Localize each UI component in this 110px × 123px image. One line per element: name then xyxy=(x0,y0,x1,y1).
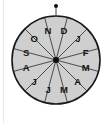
sector-label-1: J xyxy=(75,33,80,44)
sector-label-3: M xyxy=(82,62,90,73)
sector-label-10: O xyxy=(31,33,38,44)
pointer-dot[interactable] xyxy=(54,4,58,8)
spinner-figure-canvas: DJFMAMJJASON xyxy=(0,0,110,123)
sector-label-9: S xyxy=(23,47,29,58)
sector-label-2: F xyxy=(83,47,89,58)
sector-label-6: J xyxy=(45,84,50,95)
sector-label-0: D xyxy=(61,25,68,36)
sector-label-8: A xyxy=(23,62,30,73)
sector-label-7: J xyxy=(32,76,37,87)
hub-dot[interactable] xyxy=(53,57,59,63)
sector-label-11: N xyxy=(45,25,52,36)
sector-label-4: A xyxy=(74,76,81,87)
spinner-wheel[interactable]: DJFMAMJJASON xyxy=(0,0,110,123)
sector-label-5: M xyxy=(60,84,68,95)
